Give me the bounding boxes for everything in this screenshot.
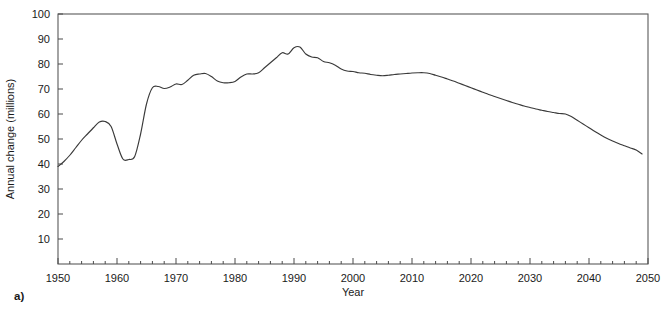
y-tick-label: 50: [38, 133, 50, 145]
x-tick-label: 2020: [459, 272, 483, 284]
y-tick-label: 40: [38, 158, 50, 170]
y-tick-label: 90: [38, 33, 50, 45]
y-tick-label: 80: [38, 58, 50, 70]
plot-frame: [58, 14, 648, 264]
panel-label: a): [14, 290, 24, 302]
y-tick-label: 70: [38, 83, 50, 95]
y-axis-ticks: [58, 14, 63, 239]
figure-panel: 102030405060708090100 195019601970198019…: [0, 0, 669, 310]
x-tick-label: 1990: [282, 272, 306, 284]
x-axis-major-ticks: [58, 258, 648, 264]
series-annual-change: [58, 46, 642, 166]
y-axis-title: Annual change (millions): [4, 79, 16, 199]
y-tick-label: 100: [32, 8, 50, 20]
x-tick-label: 1950: [46, 272, 70, 284]
x-axis-tick-labels: 1950196019701980199020002010202020302040…: [46, 272, 660, 284]
y-axis-tick-labels: 102030405060708090100: [32, 8, 50, 245]
x-axis-title: Year: [342, 286, 365, 298]
x-tick-label: 2030: [518, 272, 542, 284]
x-tick-label: 1980: [223, 272, 247, 284]
y-tick-label: 60: [38, 108, 50, 120]
y-tick-label: 20: [38, 208, 50, 220]
x-tick-label: 2050: [636, 272, 660, 284]
x-tick-label: 2010: [400, 272, 424, 284]
line-chart: 102030405060708090100 195019601970198019…: [0, 0, 669, 310]
y-tick-label: 10: [38, 233, 50, 245]
x-tick-label: 2000: [341, 272, 365, 284]
y-tick-label: 30: [38, 183, 50, 195]
x-tick-label: 1960: [105, 272, 129, 284]
x-tick-label: 1970: [164, 272, 188, 284]
x-tick-label: 2040: [577, 272, 601, 284]
